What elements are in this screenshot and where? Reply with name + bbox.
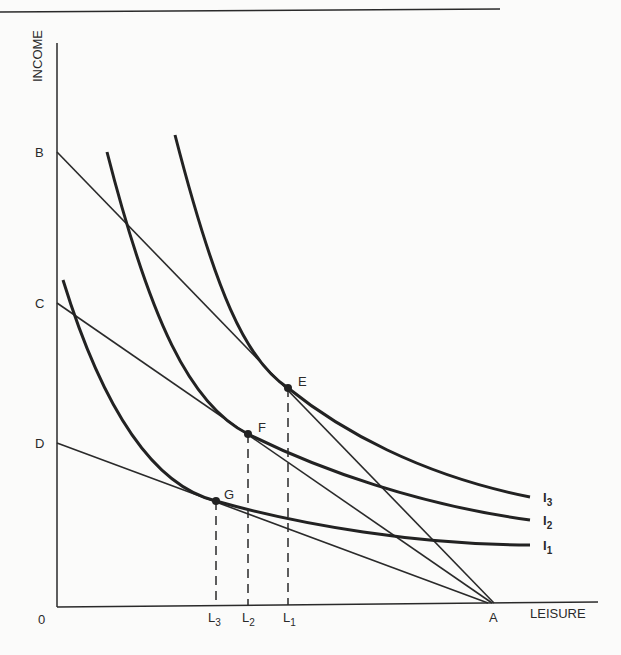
curve-label-i1: I1	[543, 538, 553, 556]
budget-line-ac	[57, 303, 492, 603]
intercept-label-b: B	[35, 145, 44, 160]
x-axis	[57, 602, 598, 607]
point-label-e: E	[298, 374, 307, 389]
tick-label-l1: L1	[283, 610, 296, 628]
curve-label-i2: I2	[543, 513, 553, 531]
indifference-curve-i3	[175, 135, 530, 497]
labor-leisure-diagram: INCOME LEISURE 0 B C D A I3 I2 I1 E F G …	[0, 0, 621, 655]
intercept-label-d: D	[35, 436, 44, 451]
tangent-point-e	[284, 384, 292, 392]
tangent-point-f	[244, 430, 252, 438]
intercept-label-a: A	[489, 610, 498, 625]
x-axis-label: LEISURE	[530, 606, 586, 621]
tangent-point-g	[212, 497, 220, 505]
indifference-curve-i1	[63, 280, 530, 545]
header-rule	[0, 9, 500, 12]
y-axis-label: INCOME	[30, 30, 45, 82]
point-label-f: F	[258, 420, 266, 435]
indifference-curve-i2	[107, 152, 530, 520]
intercept-label-c: C	[35, 296, 44, 311]
origin-label: 0	[38, 612, 45, 627]
point-label-g: G	[224, 487, 234, 502]
curve-label-i3: I3	[543, 490, 553, 508]
tick-label-l3: L3	[208, 610, 221, 628]
tick-label-l2: L2	[242, 610, 255, 628]
